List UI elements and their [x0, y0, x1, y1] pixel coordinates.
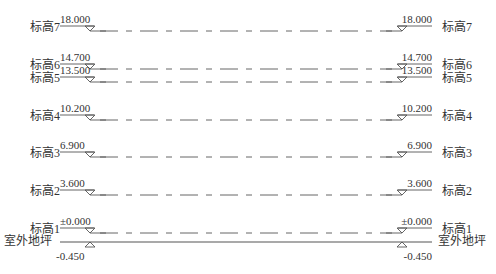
right-elevation-marker-icon	[397, 152, 407, 157]
left-level-value: 10.200	[60, 102, 90, 114]
right-level-name: 标高5	[442, 72, 472, 84]
left-elevation-marker-icon	[85, 26, 95, 31]
right-ground-name: 室外地坪	[438, 235, 486, 247]
right-ground-marker-icon	[397, 242, 407, 247]
right-level-name: 标高2	[442, 185, 472, 197]
left-elevation-marker-icon	[85, 152, 95, 157]
right-level-name: 标高6	[442, 59, 472, 71]
left-ground-marker-icon	[85, 242, 95, 247]
right-elevation-marker-icon	[397, 228, 407, 233]
right-level-value: 3.600	[407, 177, 432, 189]
left-level-value: 18.000	[60, 13, 90, 25]
left-level-name: 标高3	[30, 147, 60, 159]
left-level-name: 标高5	[30, 72, 60, 84]
right-level-value: 14.700	[402, 51, 432, 63]
left-ground-value: -0.450	[56, 250, 84, 262]
right-ground-value: -0.450	[404, 250, 432, 262]
left-elevation-marker-icon	[85, 115, 95, 120]
left-level-value: 13.500	[60, 64, 90, 76]
left-elevation-marker-icon	[85, 77, 95, 82]
left-elevation-marker-icon	[85, 190, 95, 195]
right-level-value: 18.000	[402, 13, 432, 25]
right-level-value: 13.500	[402, 64, 432, 76]
left-level-name: 标高4	[30, 110, 60, 122]
right-level-name: 标高4	[442, 110, 472, 122]
left-level-name: 标高2	[30, 185, 60, 197]
left-level-name: 标高7	[30, 21, 60, 33]
right-level-value: 10.200	[402, 102, 432, 114]
left-level-value: 14.700	[60, 51, 90, 63]
left-level-value: 6.900	[60, 139, 85, 151]
right-level-name: 标高3	[442, 147, 472, 159]
right-level-value: ±0.000	[401, 215, 432, 227]
elevation-lines	[0, 0, 496, 274]
left-level-value: 3.600	[60, 177, 85, 189]
left-level-value: ±0.000	[60, 215, 91, 227]
right-elevation-marker-icon	[397, 77, 407, 82]
elevation-diagram: 标高718.00018.000标高7标高614.70014.700标高6标高51…	[0, 0, 496, 274]
left-elevation-marker-icon	[85, 228, 95, 233]
right-elevation-marker-icon	[397, 115, 407, 120]
right-level-name: 标高7	[442, 21, 472, 33]
right-elevation-marker-icon	[397, 190, 407, 195]
right-level-value: 6.900	[407, 139, 432, 151]
left-ground-name: 室外地坪	[4, 235, 52, 247]
left-level-name: 标高6	[30, 59, 60, 71]
right-elevation-marker-icon	[397, 26, 407, 31]
